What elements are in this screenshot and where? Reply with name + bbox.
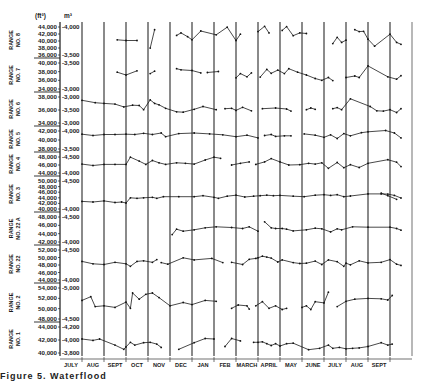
data-point	[328, 259, 330, 261]
data-point	[358, 77, 360, 79]
data-point	[123, 106, 125, 108]
data-point	[380, 298, 382, 300]
data-point	[154, 70, 156, 72]
data-point	[81, 300, 83, 302]
data-point	[200, 30, 202, 32]
data-point	[281, 259, 283, 261]
data-point	[387, 76, 389, 78]
data-point	[193, 108, 195, 110]
data-point	[257, 137, 259, 139]
month-label-dec: DEC	[175, 362, 187, 368]
data-point	[345, 262, 347, 264]
series-line-9	[254, 342, 393, 350]
m3-tick-label: -3,800	[62, 349, 80, 356]
data-point	[240, 340, 242, 342]
range-label-word: RANGE	[8, 254, 14, 274]
data-point	[213, 338, 215, 340]
m3-tick-label: -4,000	[62, 23, 80, 30]
data-point	[330, 134, 332, 136]
data-point	[288, 68, 290, 70]
data-point	[389, 109, 391, 111]
data-point	[152, 196, 154, 198]
data-point	[292, 35, 294, 37]
data-point	[352, 347, 354, 349]
m3-tick-label: -3,500	[62, 145, 80, 152]
data-point	[367, 131, 369, 133]
data-point	[266, 343, 268, 345]
data-point	[94, 102, 96, 104]
series-line-1	[260, 69, 333, 81]
data-point	[308, 349, 310, 351]
data-point	[253, 195, 255, 197]
data-point	[191, 39, 193, 41]
data-point	[396, 42, 398, 44]
month-label-march: MARCH	[237, 362, 258, 368]
ft3-tick-label: 50,000	[38, 254, 57, 261]
data-point	[367, 38, 369, 40]
data-point	[130, 265, 132, 267]
series-line-0	[150, 30, 154, 48]
range-label-number: NO. 5	[15, 132, 21, 146]
month-label-july: JULY	[328, 362, 342, 368]
data-point	[292, 342, 294, 344]
ft3-tick-label: 42,000	[38, 127, 57, 134]
data-point	[341, 42, 343, 44]
data-point	[156, 343, 158, 345]
data-point	[270, 134, 272, 136]
data-point	[226, 26, 228, 28]
data-point	[251, 110, 253, 112]
data-point	[231, 164, 233, 166]
data-point	[339, 347, 341, 349]
m3-tick-label: -4,200	[62, 323, 80, 330]
data-point	[332, 347, 334, 349]
data-point	[248, 308, 250, 310]
data-point	[336, 228, 338, 230]
range-label-word: RANGE	[8, 292, 14, 312]
ft3-tick-label: 44,000	[38, 323, 57, 330]
data-point	[387, 193, 389, 195]
data-point	[163, 196, 165, 198]
data-point	[130, 307, 132, 309]
ft3-tick-label: 48,000	[38, 315, 57, 322]
data-point	[92, 201, 94, 203]
data-point	[211, 258, 213, 260]
ft3-tick-label: 46,000	[38, 161, 57, 168]
data-point	[103, 305, 105, 307]
data-point	[92, 165, 94, 167]
data-point	[262, 108, 264, 110]
data-point	[143, 260, 145, 262]
data-point	[306, 305, 308, 307]
range-label-word: RANGE	[8, 129, 14, 149]
data-point	[306, 262, 308, 264]
data-point	[215, 300, 217, 302]
data-point	[81, 99, 83, 101]
data-point	[103, 264, 105, 266]
data-point	[310, 107, 312, 109]
data-point	[299, 263, 301, 265]
data-point	[180, 69, 182, 71]
data-point	[114, 134, 116, 136]
series-line-4	[82, 157, 221, 165]
data-point	[341, 109, 343, 111]
ft3-tick-label: 34,000	[38, 119, 57, 126]
month-label-sept: SEPT	[108, 362, 123, 368]
ft3-tick-label: 52,000	[38, 294, 57, 301]
data-point	[169, 305, 171, 307]
data-point	[314, 108, 316, 110]
m3-tick-label: -3,500	[62, 59, 80, 66]
month-label-june: JUNE	[306, 362, 321, 368]
data-point	[396, 78, 398, 80]
data-point	[262, 255, 264, 257]
data-point	[369, 106, 371, 108]
data-point	[193, 229, 195, 231]
m3-tick-label: -4,000	[62, 276, 80, 283]
series-line-1	[207, 72, 218, 73]
range-label-number: NO. 7	[15, 68, 21, 82]
data-point	[178, 348, 180, 350]
data-point	[350, 195, 352, 197]
data-point	[193, 342, 195, 344]
range-label: RANGENO. 5	[8, 129, 21, 149]
data-point	[350, 98, 352, 100]
data-point	[246, 134, 248, 136]
data-point	[92, 263, 94, 265]
